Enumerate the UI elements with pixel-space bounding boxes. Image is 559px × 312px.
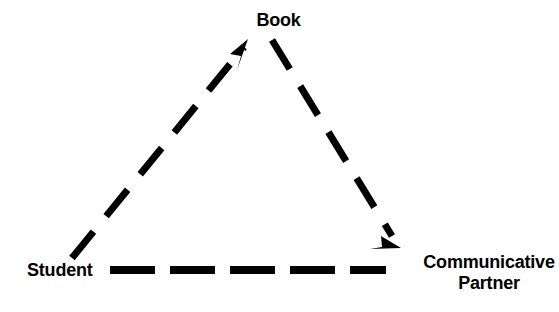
node-label-partner-line2: Partner	[419, 273, 559, 294]
edge-student-to-book-line	[72, 47, 244, 258]
triangle-diagram: Book Student Communicative Partner	[0, 0, 559, 312]
node-label-student: Student	[27, 260, 93, 281]
edge-student-to-book	[72, 39, 248, 258]
node-label-student-text: Student	[27, 260, 93, 280]
node-label-partner-line1: Communicative	[423, 252, 554, 272]
arrowhead-to-book-icon	[230, 39, 248, 70]
arrowhead-to-partner-icon	[370, 236, 401, 249]
edge-book-to-partner	[272, 40, 401, 249]
edge-book-to-partner-line	[272, 40, 392, 236]
node-label-communicative-partner: Communicative Partner	[419, 252, 559, 294]
node-label-book-text: Book	[256, 10, 300, 30]
node-label-book: Book	[0, 10, 559, 31]
